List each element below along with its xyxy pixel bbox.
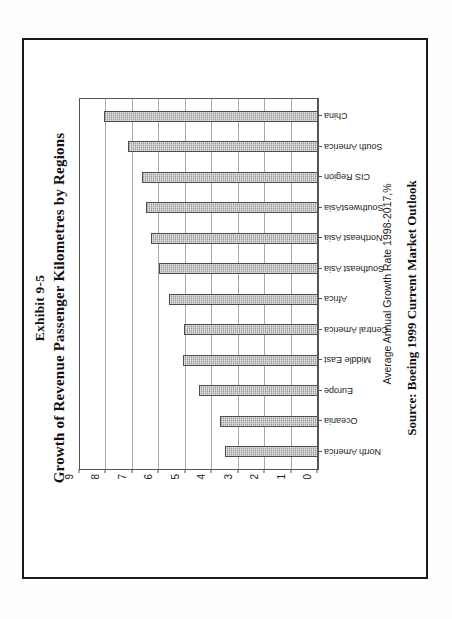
bar bbox=[146, 202, 318, 213]
bar bbox=[199, 385, 318, 396]
value-axis-tick-mark bbox=[237, 469, 238, 473]
category-axis-tick-mark bbox=[318, 237, 322, 238]
value-axis-tick-label: 7 bbox=[116, 474, 127, 480]
value-axis-tick-label: 6 bbox=[143, 474, 154, 480]
category-axis-label: North America bbox=[324, 447, 381, 457]
chart-plot-wrapper: 0123456789 North AmericaOceaniaEuropeMid… bbox=[77, 92, 339, 524]
bar bbox=[128, 141, 318, 152]
value-axis-title: Average Annual Growth Rate 1998-2017,% bbox=[381, 98, 393, 470]
bar-slot: Middle East bbox=[80, 345, 318, 376]
value-axis-tick-label: 1 bbox=[275, 474, 286, 480]
category-axis-tick-mark bbox=[318, 146, 322, 147]
value-axis-tick-mark bbox=[290, 469, 291, 473]
category-axis-label: Northeast Asia bbox=[324, 233, 383, 243]
value-axis-tick-label: 5 bbox=[169, 474, 180, 480]
bar bbox=[183, 355, 318, 366]
value-axis-tick-mark bbox=[317, 469, 318, 473]
category-axis-tick-mark bbox=[318, 115, 322, 116]
value-axis-tick-mark bbox=[184, 469, 185, 473]
value-axis-tick-mark bbox=[79, 469, 80, 473]
category-axis-tick-mark bbox=[318, 298, 322, 299]
bar-slot: South America bbox=[80, 132, 318, 163]
bar bbox=[169, 294, 318, 305]
value-axis-tick-label: 3 bbox=[222, 474, 233, 480]
value-axis-tick-mark bbox=[105, 469, 106, 473]
plot-area: 0123456789 North AmericaOceaniaEuropeMid… bbox=[79, 98, 319, 470]
bar-slot: Southeast Asia bbox=[80, 254, 318, 285]
category-axis-label: Central America bbox=[324, 325, 388, 335]
bar bbox=[184, 324, 318, 335]
bar bbox=[225, 446, 318, 457]
category-axis-tick-mark bbox=[318, 329, 322, 330]
bar-slot: China bbox=[80, 101, 318, 132]
category-axis-tick-mark bbox=[318, 451, 322, 452]
value-axis-tick-mark bbox=[211, 469, 212, 473]
value-axis-tick-label: 4 bbox=[196, 474, 207, 480]
bar-slot: North America bbox=[80, 437, 318, 468]
category-axis-tick-mark bbox=[318, 207, 322, 208]
category-axis-label: Southeast Asia bbox=[324, 264, 384, 274]
value-axis-tick-mark bbox=[264, 469, 265, 473]
bar bbox=[151, 233, 318, 244]
bar-slot: CIS Region bbox=[80, 162, 318, 193]
bar-slot: Europe bbox=[80, 376, 318, 407]
category-axis-line bbox=[317, 99, 318, 469]
category-axis-tick-mark bbox=[318, 390, 322, 391]
value-axis-tick-label: 0 bbox=[302, 474, 313, 480]
bar-slot: SouthwestAsia bbox=[80, 193, 318, 224]
value-axis-tick-mark bbox=[131, 469, 132, 473]
category-axis-label: Oceania bbox=[324, 416, 358, 426]
bar bbox=[220, 416, 318, 427]
source-note: Source: Boeing 1999 Current Market Outlo… bbox=[404, 48, 420, 568]
category-axis-label: South America bbox=[324, 142, 383, 152]
figure-body: Exhibit 9-5 Growth of Revenue Passenger … bbox=[26, 48, 406, 568]
category-axis-label: CIS Region bbox=[324, 172, 370, 182]
page-title: Growth of Revenue Passenger Kilometres b… bbox=[51, 48, 68, 568]
rotated-figure-stage: Exhibit 9-5 Growth of Revenue Passenger … bbox=[26, 48, 406, 568]
category-axis-tick-mark bbox=[318, 359, 322, 360]
bar-slot: Central America bbox=[80, 315, 318, 346]
exhibit-label: Exhibit 9-5 bbox=[32, 48, 48, 568]
bar bbox=[142, 172, 318, 183]
bar bbox=[104, 111, 318, 122]
bar-slot: Africa bbox=[80, 284, 318, 315]
bar-slot: Oceania bbox=[80, 406, 318, 437]
value-axis-tick-label: 8 bbox=[90, 474, 101, 480]
category-axis-tick-mark bbox=[318, 420, 322, 421]
value-axis-tick-mark bbox=[158, 469, 159, 473]
value-axis-tick-label: 9 bbox=[64, 474, 75, 480]
bar-slot: Northeast Asia bbox=[80, 223, 318, 254]
category-axis-label: Europe bbox=[324, 386, 353, 396]
bar-series: North AmericaOceaniaEuropeMiddle EastCen… bbox=[80, 99, 318, 469]
category-axis-label: Africa bbox=[324, 294, 347, 304]
category-axis-tick-mark bbox=[318, 176, 322, 177]
category-axis-label: China bbox=[324, 111, 348, 121]
category-axis-label: SouthwestAsia bbox=[324, 203, 384, 213]
scanned-page: Exhibit 9-5 Growth of Revenue Passenger … bbox=[0, 0, 452, 619]
category-axis-label: Middle East bbox=[324, 355, 371, 365]
category-axis-tick-mark bbox=[318, 268, 322, 269]
value-axis-tick-label: 2 bbox=[249, 474, 260, 480]
bar bbox=[159, 263, 318, 274]
